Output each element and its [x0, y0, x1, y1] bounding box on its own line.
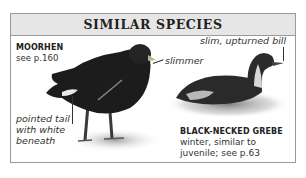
moorhen-reference: see p.160	[16, 53, 58, 63]
tail-annotation-line-1: pointed tail	[16, 113, 70, 124]
slimmer-annotation: slimmer	[165, 55, 204, 66]
bill-annotation: slim, upturned bill	[200, 35, 286, 46]
tail-leader-line	[72, 96, 73, 124]
bird-illustrations	[0, 0, 306, 178]
bill-leader-line	[283, 47, 284, 61]
grebe-name: BLACK-NECKED GREBE	[180, 127, 283, 137]
moorhen-name: MOORHEN	[16, 43, 63, 53]
tail-annotation-line-3: beneath	[16, 135, 55, 146]
moorhen-illustration	[46, 44, 163, 152]
grebe-description-line-1: winter, similar to	[180, 137, 256, 147]
grebe-description-line-2: juvenile; see p.63	[180, 148, 260, 158]
tail-annotation-line-2: with white	[16, 124, 65, 135]
